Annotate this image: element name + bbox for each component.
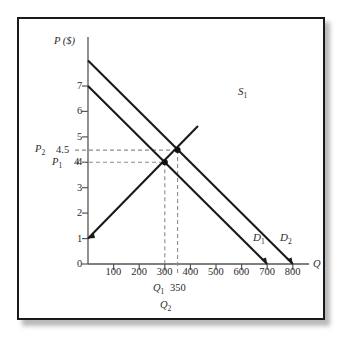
supply-curve-s1: [88, 126, 198, 239]
y-axis-title: P ($): [54, 36, 75, 47]
qty-2-label: Q2: [160, 300, 171, 313]
equilibrium-point-1: [162, 159, 168, 165]
y-tick-6: 6: [77, 106, 82, 117]
y-tick-5: 5: [77, 132, 82, 143]
supply-curve-label: S1: [238, 86, 247, 100]
y-tick-1: 1: [77, 234, 82, 245]
x-tick-300: 300: [157, 267, 173, 278]
demand-curve-2-label: D2: [280, 232, 292, 246]
y-tick-7: 7: [77, 81, 82, 92]
x-tick-100: 100: [106, 267, 122, 278]
supply-subscript: 1: [244, 91, 248, 100]
qty-1-label: Q1: [153, 283, 164, 296]
x-axis-title: Q: [313, 259, 321, 270]
y-tick-2: 2: [77, 208, 82, 219]
x-tick-200: 200: [131, 267, 147, 278]
y-axis-ticks: [82, 86, 88, 264]
figure-root: P ($) Q 0 1 2 3 4 5 6 7 100 200 300 400 …: [0, 0, 346, 347]
demand-curve-1-label: D1: [253, 232, 265, 246]
price-2-symbol: P2: [35, 144, 45, 157]
demand-1-symbol-text: D: [253, 231, 261, 243]
y-tick-3: 3: [77, 183, 82, 194]
axes: [88, 37, 309, 264]
price-1-subscript: 1: [58, 161, 62, 170]
qty-2-subscript: 2: [168, 304, 172, 313]
x-tick-400: 400: [182, 267, 198, 278]
qty-2-symbol-text: Q: [160, 299, 168, 310]
dashed-guides: [75, 150, 178, 275]
x-tick-600: 600: [234, 267, 250, 278]
qty-2-value: 350: [170, 283, 186, 294]
qty-1-symbol-text: Q: [153, 282, 161, 293]
demand-2-subscript: 2: [288, 237, 292, 246]
qty-1-subscript: 1: [161, 287, 165, 296]
price-2-subscript: 2: [41, 148, 45, 157]
x-tick-500: 500: [208, 267, 224, 278]
y-tick-0: 0: [77, 259, 82, 270]
x-tick-800: 800: [285, 267, 301, 278]
demand-2-symbol-text: D: [280, 231, 288, 243]
x-tick-700: 700: [259, 267, 275, 278]
demand-1-subscript: 1: [261, 237, 265, 246]
price-2-value: 4.5: [56, 145, 69, 156]
price-1-symbol: P1: [52, 157, 62, 170]
price-1-value: 4: [74, 157, 79, 168]
equilibrium-point-2: [175, 147, 181, 153]
